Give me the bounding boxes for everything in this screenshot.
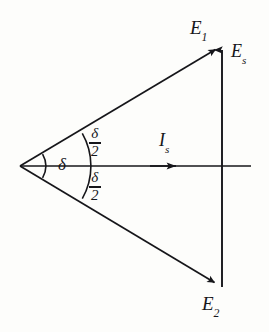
label-es-sub: s — [242, 54, 246, 66]
phasor-diagram: E1 Es E2 Is δ δ 2 δ 2 — [0, 0, 269, 332]
vector-e2 — [20, 166, 215, 283]
label-delta: δ — [58, 156, 66, 173]
label-e1-base: E — [190, 17, 202, 38]
label-e2-sub: 2 — [214, 307, 220, 320]
half-delta-bottom-numerator: δ — [89, 170, 101, 185]
label-e2-base: E — [202, 293, 214, 314]
label-es: Es — [231, 42, 246, 64]
label-half-delta-bottom: δ 2 — [89, 170, 101, 203]
vector-canvas — [0, 0, 269, 332]
half-delta-top-denominator: 2 — [89, 144, 101, 159]
label-e1-sub: 1 — [202, 31, 208, 44]
half-delta-top-numerator: δ — [89, 126, 101, 141]
label-es-base: E — [231, 41, 242, 61]
label-e1: E1 — [190, 18, 208, 42]
label-is-sub: s — [165, 143, 169, 155]
half-delta-bottom-denominator: 2 — [89, 188, 101, 203]
label-e2: E2 — [202, 294, 220, 318]
label-is: Is — [159, 131, 169, 153]
label-half-delta-top: δ 2 — [89, 126, 101, 159]
vector-e1 — [20, 50, 216, 167]
